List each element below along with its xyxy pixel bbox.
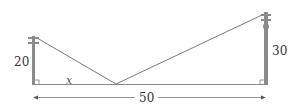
arrow-right-icon bbox=[261, 96, 266, 100]
right-pole-shaft bbox=[264, 12, 268, 85]
right-pole-height-label: 30 bbox=[272, 44, 287, 58]
distance-dimension: 50 bbox=[33, 91, 266, 105]
right-pole-insulator bbox=[263, 24, 269, 29]
wire-left-segment bbox=[37, 38, 116, 84]
right-pole-crossarm-top bbox=[261, 14, 271, 16]
right-right-angle-marker bbox=[260, 80, 264, 84]
arrow-left-icon bbox=[33, 96, 38, 100]
distance-label: 50 bbox=[139, 91, 154, 105]
right-pole bbox=[260, 12, 271, 85]
left-pole-height-label: 20 bbox=[14, 55, 29, 69]
left-pole-crossarm-bottom bbox=[28, 42, 39, 44]
left-right-angle-marker bbox=[35, 80, 39, 84]
left-pole bbox=[28, 36, 39, 85]
distance-variable-label: x bbox=[66, 74, 73, 87]
pole-wire-diagram: 20 30 x 50 bbox=[0, 0, 300, 109]
right-pole-crossarm-bottom bbox=[261, 19, 271, 21]
wire-right-segment bbox=[116, 15, 262, 84]
